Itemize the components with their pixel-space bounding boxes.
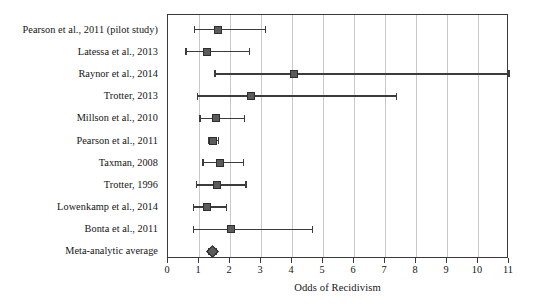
x-axis: 01234567891011 — [167, 258, 508, 264]
ci-cap-lower — [194, 26, 195, 33]
ci-cap-lower — [193, 226, 194, 233]
effect-size-marker — [214, 26, 222, 34]
study-label: Millson et al., 2010 — [0, 112, 158, 123]
ci-cap-lower — [193, 204, 194, 211]
x-tick-10 — [477, 258, 478, 263]
x-tick-label-1: 1 — [195, 264, 200, 275]
effect-size-marker — [209, 137, 217, 145]
x-tick-label-10: 10 — [472, 264, 482, 275]
study-label: Bonta et al., 2011 — [0, 223, 158, 234]
confidence-interval-line — [215, 73, 509, 74]
x-tick-label-5: 5 — [319, 264, 324, 275]
x-tick-6 — [353, 258, 354, 263]
x-tick-label-11: 11 — [503, 264, 513, 275]
x-tick-label-0: 0 — [164, 264, 169, 275]
plot-area — [167, 14, 508, 258]
ci-cap-upper — [243, 159, 244, 166]
x-tick-label-2: 2 — [226, 264, 231, 275]
effect-size-marker — [247, 92, 255, 100]
study-label: Pearson et al., 2011 — [0, 134, 158, 145]
ci-cap-lower — [202, 159, 203, 166]
x-tick-7 — [384, 258, 385, 263]
confidence-interval-line — [198, 95, 397, 96]
x-tick-label-6: 6 — [350, 264, 355, 275]
ci-cap-lower — [214, 70, 215, 77]
confidence-interval-line — [193, 229, 312, 230]
study-label: Raynor et al., 2014 — [0, 67, 158, 78]
study-label: Taxman, 2008 — [0, 156, 158, 167]
effect-size-marker — [290, 70, 298, 78]
ci-cap-upper — [218, 137, 219, 144]
x-tick-1 — [198, 258, 199, 263]
ci-cap-lower — [185, 48, 186, 55]
confidence-interval-line — [200, 118, 244, 119]
x-tick-label-8: 8 — [412, 264, 417, 275]
x-tick-label-7: 7 — [381, 264, 386, 275]
gridline-6 — [354, 15, 355, 257]
x-tick-3 — [260, 258, 261, 263]
ci-cap-upper — [244, 115, 245, 122]
study-label: Meta-analytic average — [0, 245, 158, 256]
confidence-interval-line — [186, 51, 249, 52]
effect-size-marker — [212, 114, 220, 122]
x-tick-0 — [167, 258, 168, 263]
ci-cap-upper — [226, 204, 227, 211]
study-label: Trotter, 2013 — [0, 90, 158, 101]
gridline-5 — [323, 15, 324, 257]
x-tick-5 — [322, 258, 323, 263]
x-tick-label-4: 4 — [288, 264, 293, 275]
forest-plot: Pearson et al., 2011 (pilot study)Latess… — [0, 0, 540, 307]
ci-cap-lower — [197, 93, 198, 100]
gridline-8 — [416, 15, 417, 257]
ci-cap-lower — [199, 115, 200, 122]
gridline-7 — [385, 15, 386, 257]
gridline-10 — [478, 15, 479, 257]
effect-size-marker — [227, 225, 235, 233]
confidence-interval-line — [194, 29, 265, 30]
ci-cap-upper — [396, 93, 397, 100]
effect-size-marker — [203, 48, 211, 56]
effect-size-marker — [203, 203, 211, 211]
study-label: Trotter, 1996 — [0, 178, 158, 189]
gridline-4 — [292, 15, 293, 257]
effect-size-marker — [213, 181, 221, 189]
study-label-column: Pearson et al., 2011 (pilot study)Latess… — [0, 0, 162, 258]
x-axis-title: Odds of Recidivism — [167, 282, 508, 293]
effect-size-marker — [216, 159, 224, 167]
x-tick-4 — [291, 258, 292, 263]
x-tick-label-9: 9 — [443, 264, 448, 275]
gridline-3 — [261, 15, 262, 257]
study-label: Lowenkamp et al., 2014 — [0, 201, 158, 212]
ci-cap-upper — [265, 26, 266, 33]
confidence-interval-line — [197, 184, 247, 185]
gridline-9 — [447, 15, 448, 257]
x-tick-11 — [508, 258, 509, 263]
x-tick-label-3: 3 — [257, 264, 262, 275]
ci-cap-upper — [245, 181, 246, 188]
study-label: Pearson et al., 2011 (pilot study) — [0, 23, 158, 34]
x-tick-2 — [229, 258, 230, 263]
study-label: Latessa et al., 2013 — [0, 45, 158, 56]
x-tick-9 — [446, 258, 447, 263]
ci-cap-upper — [508, 70, 509, 77]
ci-cap-upper — [249, 48, 250, 55]
x-tick-8 — [415, 258, 416, 263]
ci-cap-upper — [312, 226, 313, 233]
ci-cap-lower — [196, 181, 197, 188]
